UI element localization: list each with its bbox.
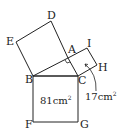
label-G: G [80, 118, 89, 131]
area-label-BCGF: 81cm2 [40, 94, 72, 106]
diagram-canvas: D E A I H B C F G 81cm2 17cm2 [0, 0, 121, 139]
label-C: C [78, 74, 86, 87]
label-A: A [67, 43, 77, 56]
area-label-ACHI: 17cm2 [85, 90, 117, 102]
right-triangle-squares-diagram: D E A I H B C F G 81cm2 17cm2 [0, 0, 121, 139]
square-ABED [16, 21, 68, 76]
label-H: H [98, 61, 108, 74]
area-pointer-arrow [85, 64, 96, 91]
label-B: B [25, 73, 33, 86]
label-I: I [87, 37, 91, 50]
label-E: E [6, 35, 14, 48]
label-F: F [25, 118, 33, 131]
label-D: D [47, 9, 56, 22]
